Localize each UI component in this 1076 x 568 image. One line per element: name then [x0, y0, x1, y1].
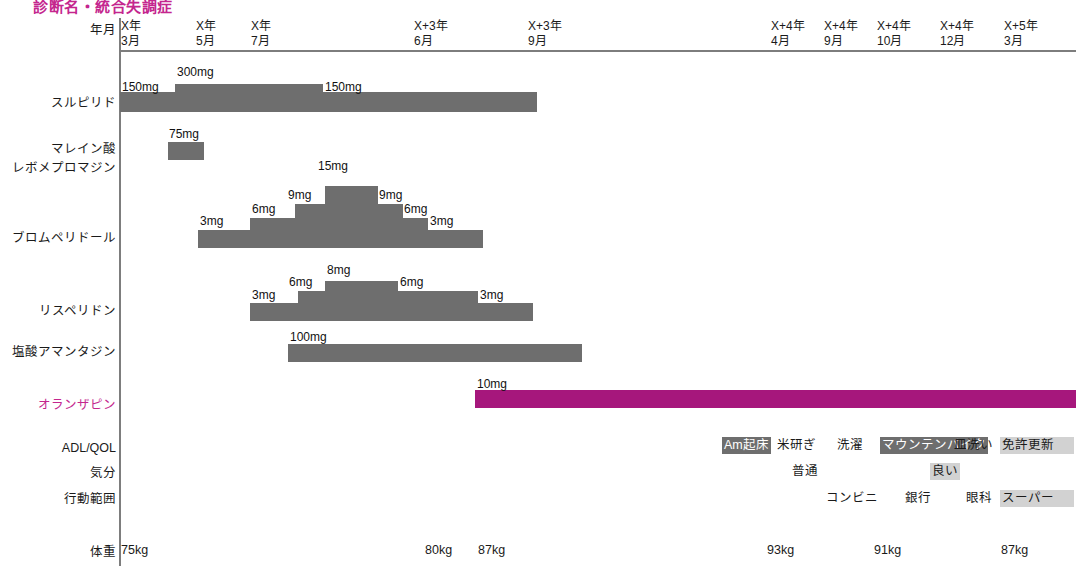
medication-row-label: 塩酸アマンタジン — [0, 344, 116, 360]
x-tick-month: 3月 — [1004, 34, 1038, 49]
event-badge: スーパー — [1000, 490, 1074, 507]
medication-row-label: スルピリド — [0, 95, 116, 111]
x-tick-month: 4月 — [771, 34, 805, 49]
medication-timeline-chart: 診断名・統合失調症 年月 X年3月X年5月X年7月X+3年6月X+3年9月X+4… — [0, 0, 1076, 568]
event-badge: 洗濯 — [835, 437, 865, 454]
x-tick-year: X+3年 — [528, 19, 562, 34]
weight-value: 91kg — [874, 543, 901, 558]
event-row-label: ADL/QOL — [0, 440, 116, 456]
x-tick-label: X年7月 — [251, 19, 271, 49]
x-tick-label: X+4年4月 — [771, 19, 805, 49]
dose-bar-segment — [250, 303, 298, 321]
dose-label: 9mg — [379, 189, 402, 202]
weight-value: 80kg — [425, 543, 452, 558]
dose-label: 6mg — [404, 203, 427, 216]
x-tick-month: 10月 — [877, 34, 911, 49]
x-tick-label: X+5年3月 — [1004, 19, 1038, 49]
event-badge: 眼科 — [964, 490, 994, 507]
x-tick-year: X+4年 — [771, 19, 805, 34]
weight-row-label: 体重 — [0, 544, 116, 560]
dose-bar-segment — [478, 303, 533, 321]
medication-row-label: オランザピン — [0, 397, 116, 413]
x-tick-label: X+4年9月 — [824, 19, 858, 49]
x-tick-month: 6月 — [414, 34, 448, 49]
medication-label-line: リスペリドン — [0, 303, 116, 319]
x-tick-year: X年 — [121, 19, 141, 34]
event-badge: 普通 — [790, 463, 820, 480]
x-tick-month: 9月 — [824, 34, 858, 49]
medication-label-line: 塩酸アマンタジン — [0, 344, 116, 360]
dose-bar-segment — [378, 204, 403, 248]
dose-bar-segment — [325, 281, 398, 321]
medication-row-label: リスペリドン — [0, 303, 116, 319]
x-tick-year: X+4年 — [824, 19, 858, 34]
x-tick-year: X+4年 — [877, 19, 911, 34]
dose-label: 8mg — [327, 264, 350, 277]
dose-bar-segment — [198, 230, 250, 248]
x-tick-label: X+4年12月 — [940, 19, 974, 49]
medication-row-label: マレイン酸レボメプロマジン — [0, 140, 116, 178]
event-badge: 良い — [930, 463, 960, 480]
event-badge: 米研ぎ — [775, 437, 818, 454]
x-tick-label: X+4年10月 — [877, 19, 911, 49]
x-tick-year: X+3年 — [414, 19, 448, 34]
dose-label: 3mg — [252, 289, 275, 302]
x-tick-label: X+3年6月 — [414, 19, 448, 49]
dose-label: 150mg — [325, 81, 362, 94]
dose-label: 3mg — [480, 289, 503, 302]
dose-bar-segment — [288, 344, 582, 362]
dose-label: 6mg — [400, 276, 423, 289]
medication-label-line: マレイン酸 — [0, 140, 116, 159]
dose-label: 300mg — [177, 66, 214, 79]
dose-bar-segment — [323, 92, 537, 112]
weight-value: 87kg — [478, 543, 505, 558]
dose-label: 15mg — [318, 160, 348, 173]
event-badge: Am起床 — [722, 437, 771, 454]
weight-value: 75kg — [121, 543, 148, 558]
dose-bar-segment — [475, 390, 1076, 408]
dose-bar-segment — [175, 84, 323, 112]
x-tick-month: 3月 — [121, 34, 141, 49]
dose-bar-segment — [325, 186, 378, 248]
x-tick-label: X+3年9月 — [528, 19, 562, 49]
x-tick-year: X年 — [196, 19, 216, 34]
dose-label: 100mg — [290, 331, 327, 344]
medication-label-line: オランザピン — [0, 397, 116, 413]
weight-value: 87kg — [1001, 543, 1028, 558]
medication-label-line: スルピリド — [0, 95, 116, 111]
dose-bar-segment — [298, 291, 325, 321]
event-badge: コンビニ — [824, 490, 880, 507]
dose-label: 75mg — [169, 128, 199, 141]
x-tick-month: 9月 — [528, 34, 562, 49]
dose-bar-segment — [168, 142, 204, 160]
dose-label: 6mg — [289, 276, 312, 289]
medication-label-line: レボメプロマジン — [0, 159, 116, 178]
dose-bar-segment — [398, 291, 478, 321]
dose-label: 10mg — [477, 378, 507, 391]
dose-label: 150mg — [122, 81, 159, 94]
dose-bar-segment — [428, 230, 483, 248]
dose-bar-segment — [295, 204, 325, 248]
dose-bar-segment — [250, 218, 295, 248]
x-tick-year: X+5年 — [1004, 19, 1038, 34]
x-tick-year: X年 — [251, 19, 271, 34]
dose-bar-segment — [403, 218, 428, 248]
x-tick-label: X年3月 — [121, 19, 141, 49]
x-tick-month: 5月 — [196, 34, 216, 49]
dose-label: 3mg — [200, 215, 223, 228]
horizontal-axis-line — [119, 50, 1076, 52]
dose-bar-segment — [120, 92, 175, 112]
event-badge: 銀行 — [903, 490, 933, 507]
event-row-label: 行動範囲 — [0, 491, 116, 507]
axis-period-header: 年月 — [60, 19, 116, 38]
medication-label-line: ブロムペリドール — [0, 230, 116, 246]
dose-label: 3mg — [430, 215, 453, 228]
weight-value: 93kg — [767, 543, 794, 558]
medication-row-label: ブロムペリドール — [0, 230, 116, 246]
event-row-label: 気分 — [0, 465, 116, 481]
x-tick-year: X+4年 — [940, 19, 974, 34]
x-tick-month: 7月 — [251, 34, 271, 49]
page-title: 診断名・統合失調症 — [33, 0, 173, 16]
x-tick-label: X年5月 — [196, 19, 216, 49]
dose-label: 6mg — [252, 203, 275, 216]
